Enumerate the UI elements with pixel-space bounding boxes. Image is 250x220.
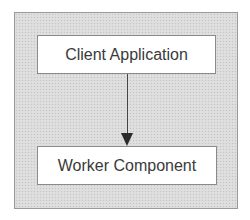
diagram-canvas: Client Application Worker Component [0,0,250,220]
client-application-label: Client Application [65,46,188,64]
client-application-node: Client Application [37,35,216,74]
worker-component-label: Worker Component [58,157,196,175]
worker-component-node: Worker Component [37,146,217,185]
connector-line [127,74,128,134]
arrow-down-icon [121,133,133,146]
